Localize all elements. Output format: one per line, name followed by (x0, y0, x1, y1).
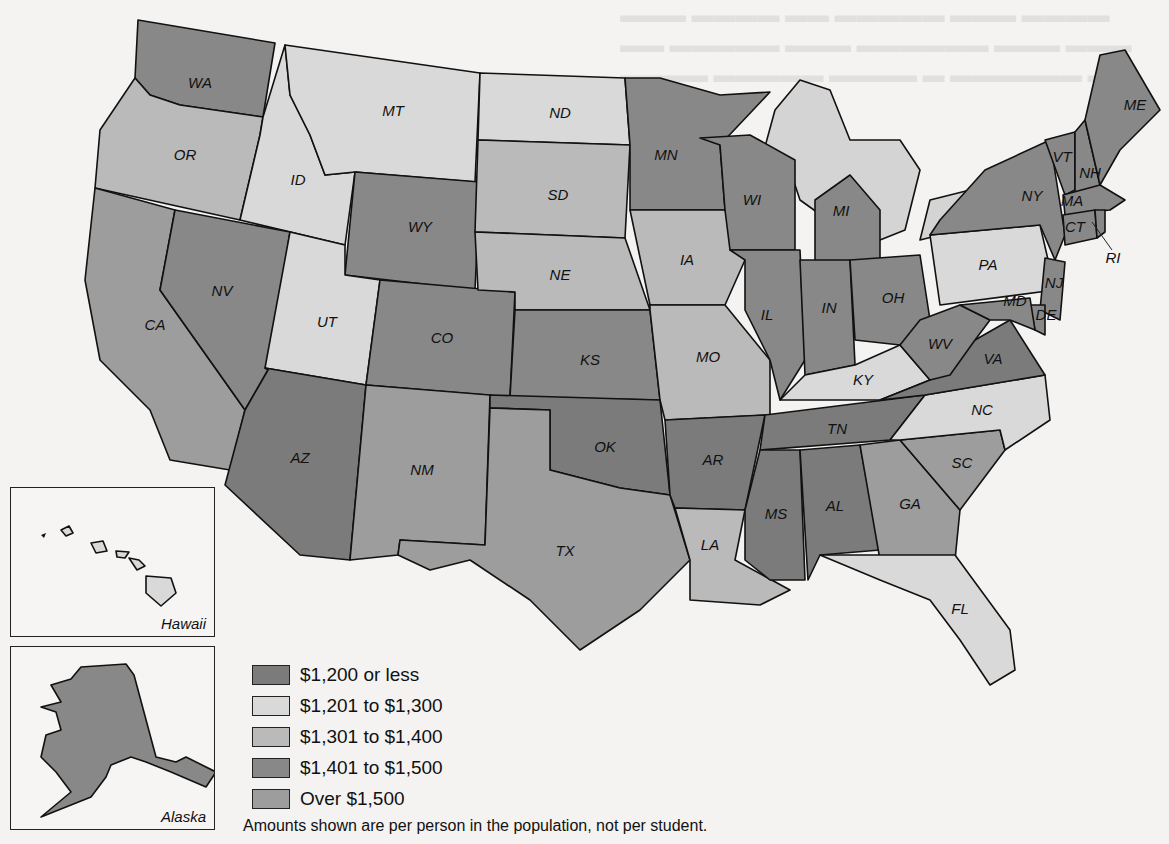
alaska-shape[interactable] (11, 647, 214, 829)
svg-text:LA: LA (701, 536, 719, 553)
svg-text:DE: DE (1036, 306, 1058, 323)
svg-text:CO: CO (431, 329, 454, 346)
svg-text:NM: NM (410, 461, 434, 478)
legend-swatch (252, 665, 290, 685)
svg-text:MS: MS (765, 505, 788, 522)
svg-text:WA: WA (188, 74, 212, 91)
svg-text:AL: AL (825, 497, 844, 514)
svg-text:VA: VA (983, 350, 1002, 367)
svg-text:PA: PA (979, 256, 998, 273)
legend-swatch (252, 789, 290, 809)
svg-text:SC: SC (952, 454, 973, 471)
svg-text:ID: ID (291, 171, 306, 188)
svg-text:OR: OR (174, 146, 197, 163)
svg-text:ME: ME (1124, 96, 1147, 113)
svg-text:MO: MO (696, 348, 720, 365)
state-FL[interactable] (820, 555, 1015, 685)
svg-text:MN: MN (654, 146, 677, 163)
legend-item: $1,200 or less (252, 659, 443, 690)
svg-text:TX: TX (555, 542, 575, 559)
legend-item: $1,201 to $1,300 (252, 690, 443, 721)
alaska-inset: Alaska (10, 646, 215, 830)
hawaii-shape[interactable] (11, 488, 214, 636)
svg-text:AZ: AZ (289, 449, 310, 466)
svg-text:NE: NE (550, 266, 572, 283)
svg-text:ND: ND (549, 104, 571, 121)
hawaii-label: Hawaii (161, 615, 206, 632)
svg-text:CA: CA (145, 316, 166, 333)
legend-item: Over $1,500 (252, 783, 443, 814)
svg-text:WY: WY (408, 218, 433, 235)
svg-text:NV: NV (212, 282, 235, 299)
svg-text:VT: VT (1052, 148, 1073, 165)
svg-text:NY: NY (1022, 187, 1044, 204)
alaska-label: Alaska (161, 808, 206, 825)
svg-text:FL: FL (951, 600, 969, 617)
svg-text:RI: RI (1106, 249, 1121, 266)
svg-text:AR: AR (702, 451, 724, 468)
legend-item: $1,401 to $1,500 (252, 752, 443, 783)
svg-text:NH: NH (1079, 164, 1101, 181)
svg-text:NC: NC (971, 401, 993, 418)
hawaii-inset: Hawaii (10, 487, 215, 637)
legend-swatch (252, 727, 290, 747)
svg-text:IL: IL (761, 306, 774, 323)
map-footnote: Amounts shown are per person in the popu… (243, 817, 707, 835)
svg-text:MD: MD (1003, 292, 1026, 309)
legend-swatch (252, 758, 290, 778)
svg-text:UT: UT (317, 313, 339, 330)
svg-text:SD: SD (548, 186, 569, 203)
svg-text:WI: WI (743, 191, 761, 208)
svg-text:MA: MA (1061, 192, 1084, 209)
legend: $1,200 or less $1,201 to $1,300 $1,301 t… (252, 659, 443, 814)
svg-text:MT: MT (382, 102, 405, 119)
svg-text:CT: CT (1065, 218, 1087, 235)
svg-text:GA: GA (899, 495, 921, 512)
svg-text:NJ: NJ (1045, 274, 1064, 291)
svg-text:OK: OK (594, 438, 617, 455)
legend-swatch (252, 696, 290, 716)
svg-text:IA: IA (680, 251, 694, 268)
state-IN[interactable] (800, 260, 855, 375)
svg-text:MI: MI (833, 202, 850, 219)
svg-text:IN: IN (822, 299, 837, 316)
svg-text:WV: WV (928, 335, 954, 352)
svg-text:KY: KY (853, 371, 874, 388)
svg-text:KS: KS (580, 351, 600, 368)
legend-item: $1,301 to $1,400 (252, 721, 443, 752)
svg-text:TN: TN (827, 420, 847, 437)
svg-text:OH: OH (882, 289, 905, 306)
